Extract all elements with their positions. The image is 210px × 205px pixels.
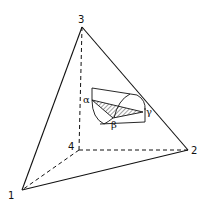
tie-triangle (92, 100, 143, 118)
edge-1-3 (22, 27, 82, 190)
edge-4-1-hidden (22, 150, 79, 190)
vertex-label-4: 4 (68, 141, 74, 152)
edge-4-3-hidden (79, 27, 82, 150)
phase-label-beta: β (111, 119, 117, 130)
vertex-label-1: 1 (8, 190, 14, 201)
edge-1-2 (22, 150, 188, 190)
three-phase-region (92, 88, 145, 124)
phase-label-gamma: γ (146, 106, 152, 117)
tetrahedron-diagram: 3 1 2 4 α γ β (0, 0, 210, 205)
vertex-label-2: 2 (191, 145, 197, 156)
vertex-label-3: 3 (78, 14, 84, 25)
phase-label-alpha: α (83, 94, 90, 105)
